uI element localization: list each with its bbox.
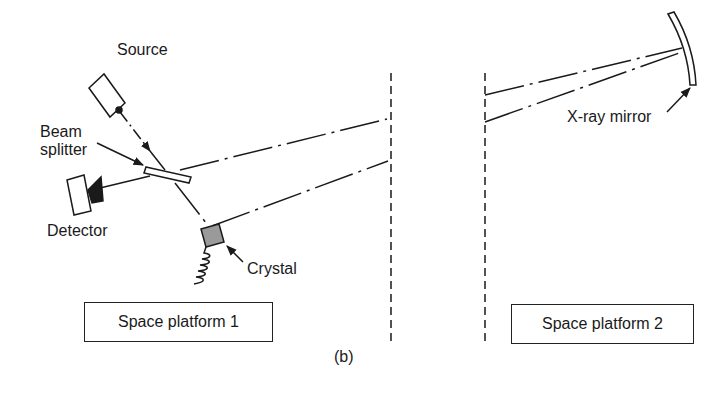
figure-caption: (b) [334, 348, 354, 366]
spring-icon [194, 247, 210, 284]
beam-to-mirror-upper [485, 48, 682, 95]
beam-to-platform-upper [180, 119, 387, 170]
crystal-label: Crystal [247, 260, 297, 278]
crystal-pointer [227, 246, 243, 262]
beam-to-crystal [175, 183, 210, 228]
optical-diagram [0, 0, 727, 409]
source-beam [120, 112, 150, 151]
beam-from-crystal [212, 161, 388, 226]
beam-splitter-pointer [97, 143, 143, 165]
space-platform-1-box: Space platform 1 [84, 302, 273, 342]
detector-label: Detector [47, 222, 107, 240]
detector-icon [67, 175, 103, 215]
xray-mirror-pointer [667, 88, 690, 112]
xray-mirror-label: X-ray mirror [567, 108, 651, 126]
beam-splitter-label-2: splitter [40, 141, 87, 159]
diagram-canvas: Source Beam splitter Detector Crystal X-… [0, 0, 727, 409]
crystal-icon [201, 224, 224, 247]
beam-splitter-label-1: Beam [40, 123, 82, 141]
beam-to-detector [100, 176, 150, 188]
space-platform-2-box: Space platform 2 [511, 304, 694, 344]
source-label: Source [117, 41, 168, 59]
source-icon [89, 74, 125, 117]
